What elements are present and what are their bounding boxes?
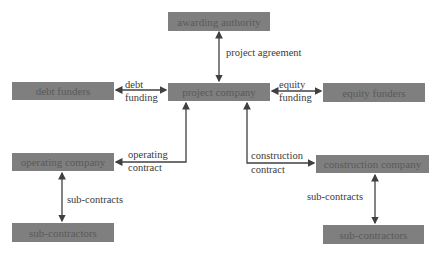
node-awarding-authority: awarding authority <box>168 12 270 31</box>
label-construction-contract: contract <box>251 163 285 176</box>
label-project-agreement: project agreement <box>226 46 302 59</box>
label-equity-funding: funding <box>279 91 312 104</box>
label-operating: operating <box>128 148 168 161</box>
label-equity: equity <box>279 78 305 91</box>
node-equity-funders: equity funders <box>323 83 425 102</box>
label-subcontracts-right: sub-contracts <box>307 190 363 203</box>
node-project-company: project company <box>168 83 270 101</box>
node-sub-contractors-left: sub-contractors <box>12 223 114 242</box>
label-construction: construction <box>251 149 303 162</box>
connector-lines <box>0 0 439 259</box>
label-debt: debt <box>125 78 143 91</box>
label-operating-contract: contract <box>128 161 162 174</box>
node-debt-funders: debt funders <box>12 82 114 100</box>
label-debt-funding: funding <box>125 91 158 104</box>
node-sub-contractors-right: sub-contractors <box>323 225 424 244</box>
label-subcontracts-left: sub-contracts <box>67 193 123 206</box>
node-construction-company: construction company <box>316 155 429 173</box>
node-operating-company: operating company <box>12 153 114 171</box>
